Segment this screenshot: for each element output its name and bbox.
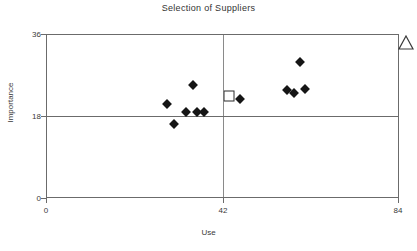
y-axis-title: Importance (6, 63, 15, 143)
x-tick-mark-84 (398, 198, 399, 203)
plot-area (46, 34, 399, 198)
data-point-diamond (295, 57, 305, 67)
data-point-diamond (300, 84, 310, 94)
x-tick-mark-42 (223, 198, 224, 203)
data-point-diamond (162, 99, 172, 109)
x-tick-mark-0 (46, 198, 47, 203)
x-axis-title: Use (0, 228, 417, 237)
data-point-diamond (235, 94, 245, 104)
data-point-diamond (169, 119, 179, 129)
scatter-chart: Selection of Suppliers Importance 36 18 … (0, 0, 417, 251)
quadrant-line-horizontal (47, 116, 398, 117)
y-axis-tick-labels: 36 18 0 (22, 0, 41, 251)
x-tick-label-84: 84 (394, 206, 403, 215)
y-tick-label-36: 36 (32, 30, 41, 39)
chart-title: Selection of Suppliers (0, 3, 417, 13)
data-point-diamond (188, 80, 198, 90)
x-tick-label-42: 42 (219, 206, 228, 215)
x-tick-label-0: 0 (44, 206, 48, 215)
data-point-open-square (224, 91, 235, 102)
y-tick-label-18: 18 (32, 112, 41, 121)
